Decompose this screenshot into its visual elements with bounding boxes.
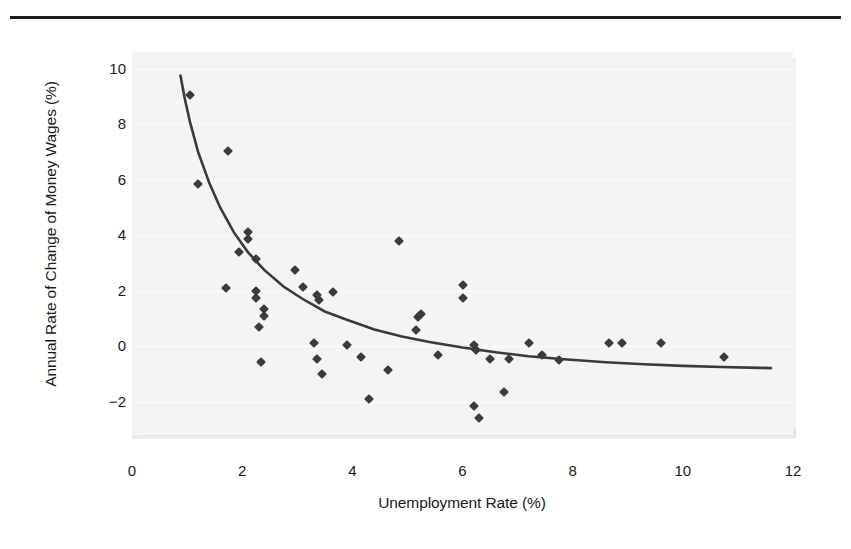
scatter-point [256,357,266,367]
y-tick-label: 10 [92,60,126,77]
scatter-point [458,293,468,303]
gridline [132,69,793,70]
x-tick-label: 4 [332,462,372,479]
gridline [132,124,793,125]
fitted-curve [132,52,793,435]
x-tick-label: 2 [222,462,262,479]
plot-area [132,52,793,435]
x-tick-label: 6 [443,462,483,479]
scatter-point [474,413,484,423]
gridline [132,402,793,403]
scatter-point [342,340,352,350]
gridline [132,346,793,347]
scatter-point [499,387,509,397]
x-axis-tick-labels: 024681012 [0,462,851,484]
scatter-point [356,352,366,362]
scatter-point [251,293,261,303]
scatter-point [537,350,547,360]
x-tick-label: 10 [663,462,703,479]
scatter-point [290,265,300,275]
top-divider-rule [10,16,841,19]
y-tick-label: 6 [92,171,126,188]
scatter-point [504,354,514,364]
y-tick-label: 0 [92,337,126,354]
y-tick-label: 4 [92,226,126,243]
scatter-point [485,354,495,364]
scatter-point [458,280,468,290]
scatter-point [312,354,322,364]
scatter-point [259,311,269,321]
scatter-point [234,247,244,257]
scatter-point [383,365,393,375]
scatter-point [223,146,233,156]
gridline [132,235,793,236]
scatter-point [328,287,338,297]
y-tick-label: 2 [92,282,126,299]
scatter-point [251,254,261,264]
x-axis-title: Unemployment Rate (%) [132,494,792,512]
scatter-point [554,355,564,365]
y-tick-label: −2 [92,393,126,410]
scatter-point [411,325,421,335]
gridline [132,180,793,181]
x-tick-label: 8 [553,462,593,479]
scatter-point [317,369,327,379]
x-tick-label: 12 [773,462,813,479]
y-axis-title: Annual Rate of Change of Money Wages (%) [42,44,60,424]
scatter-point [254,322,264,332]
scatter-point [314,295,324,305]
x-tick-label: 0 [112,462,152,479]
scatter-point [394,236,404,246]
plot-shell [132,52,793,435]
gridline [132,291,793,292]
figure-canvas: Annual Rate of Change of Money Wages (%)… [0,0,851,549]
y-tick-label: 8 [92,115,126,132]
scatter-point [185,90,195,100]
scatter-point [719,352,729,362]
scatter-point [433,350,443,360]
